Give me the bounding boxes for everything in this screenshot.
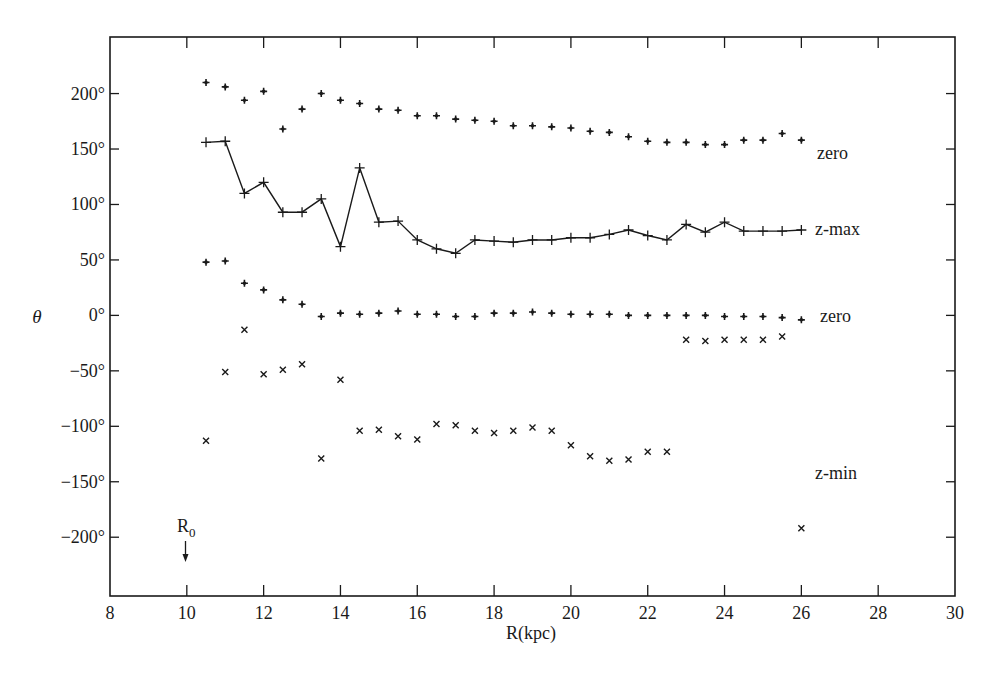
series-zero bbox=[203, 79, 805, 148]
marker-dot bbox=[608, 131, 612, 135]
cross-marker-icon bbox=[222, 369, 228, 375]
plus-marker-icon bbox=[604, 229, 614, 239]
cross-marker-icon bbox=[472, 428, 478, 434]
x-tick-label: 28 bbox=[869, 603, 887, 623]
plus-marker-icon bbox=[239, 188, 249, 198]
marker-dot bbox=[377, 107, 381, 111]
marker-dot bbox=[646, 314, 650, 318]
marker-dot bbox=[511, 311, 515, 315]
data-series bbox=[201, 79, 806, 531]
series-label-zero: zero bbox=[817, 143, 848, 163]
plus-marker-icon bbox=[489, 236, 499, 246]
series-label-zero: zero bbox=[820, 306, 851, 326]
cross-marker-icon bbox=[779, 333, 785, 339]
cross-marker-icon bbox=[760, 337, 766, 343]
cross-marker-icon bbox=[357, 428, 363, 434]
marker-dot bbox=[262, 90, 266, 94]
plus-marker-icon bbox=[259, 177, 269, 187]
cross-marker-icon bbox=[491, 430, 497, 436]
marker-dot bbox=[223, 259, 227, 263]
marker-dot bbox=[742, 315, 746, 319]
marker-dot bbox=[684, 314, 688, 318]
cross-marker-icon bbox=[299, 361, 305, 367]
cross-marker-icon bbox=[241, 327, 247, 333]
plus-marker-icon bbox=[316, 194, 326, 204]
marker-dot bbox=[223, 85, 227, 89]
y-axis-title: θ bbox=[32, 306, 41, 327]
marker-dot bbox=[704, 314, 708, 318]
plus-marker-icon bbox=[643, 231, 653, 241]
plus-marker-icon bbox=[278, 207, 288, 217]
cross-marker-icon bbox=[587, 453, 593, 459]
cross-marker-icon bbox=[702, 338, 708, 344]
plus-marker-icon bbox=[431, 244, 441, 254]
y-tick-label: −200° bbox=[61, 527, 105, 547]
y-tick-label: −150° bbox=[61, 472, 105, 492]
theta-vs-radius-chart: 81012141618202224262830 200°150°100°50°0… bbox=[0, 0, 998, 686]
marker-dot bbox=[243, 281, 247, 285]
marker-dot bbox=[281, 127, 285, 131]
plus-marker-icon bbox=[451, 248, 461, 258]
marker-dot bbox=[684, 141, 688, 145]
cross-marker-icon bbox=[530, 424, 536, 430]
marker-dot bbox=[723, 315, 727, 319]
cross-marker-icon bbox=[626, 457, 632, 463]
cross-marker-icon bbox=[683, 337, 689, 343]
plus-marker-icon bbox=[777, 226, 787, 236]
plus-marker-icon bbox=[528, 235, 538, 245]
cross-marker-icon bbox=[510, 428, 516, 434]
marker-dot bbox=[454, 117, 458, 121]
r0-subscript: 0 bbox=[189, 525, 196, 540]
cross-marker-icon bbox=[395, 433, 401, 439]
plus-marker-icon bbox=[547, 235, 557, 245]
y-tick-label: 200° bbox=[71, 84, 105, 104]
cross-marker-icon bbox=[568, 442, 574, 448]
plus-marker-icon bbox=[220, 136, 230, 146]
marker-dot bbox=[262, 288, 266, 292]
r0-label: R bbox=[177, 516, 189, 536]
y-tick-label: 150° bbox=[71, 139, 105, 159]
marker-dot bbox=[608, 312, 612, 316]
marker-dot bbox=[358, 312, 362, 316]
marker-dot bbox=[473, 118, 477, 122]
y-tick-label: 50° bbox=[80, 250, 105, 270]
marker-dot bbox=[454, 315, 458, 319]
marker-dot bbox=[492, 119, 496, 123]
marker-dot bbox=[415, 114, 419, 118]
r0-marker: R0 bbox=[177, 516, 196, 562]
marker-dot bbox=[665, 141, 669, 145]
marker-dot bbox=[588, 312, 592, 316]
x-tick-label: 26 bbox=[792, 603, 810, 623]
marker-dot bbox=[204, 260, 208, 264]
marker-dot bbox=[339, 311, 343, 315]
y-tick-label: 0° bbox=[89, 305, 105, 325]
plus-marker-icon bbox=[566, 233, 576, 243]
marker-dot bbox=[358, 102, 362, 106]
series-zero-lower- bbox=[203, 258, 805, 324]
y-tick-label: 100° bbox=[71, 194, 105, 214]
marker-dot bbox=[396, 108, 400, 112]
x-tick-label: 20 bbox=[562, 603, 580, 623]
marker-dot bbox=[531, 124, 535, 128]
marker-dot bbox=[415, 312, 419, 316]
marker-dot bbox=[800, 318, 804, 322]
marker-dot bbox=[569, 126, 573, 130]
plus-marker-icon bbox=[700, 227, 710, 237]
marker-dot bbox=[473, 315, 477, 319]
series-z-max bbox=[201, 136, 806, 258]
x-tick-label: 30 bbox=[946, 603, 964, 623]
y-tick-label: −100° bbox=[61, 416, 105, 436]
cross-marker-icon bbox=[376, 427, 382, 433]
cross-marker-icon bbox=[337, 377, 343, 383]
cross-marker-icon bbox=[318, 455, 324, 461]
plus-marker-icon bbox=[585, 233, 595, 243]
marker-dot bbox=[204, 81, 208, 85]
marker-dot bbox=[377, 311, 381, 315]
marker-dot bbox=[300, 302, 304, 306]
plus-marker-icon bbox=[720, 217, 730, 227]
x-tick-label: 12 bbox=[255, 603, 273, 623]
cross-marker-icon bbox=[664, 449, 670, 455]
marker-dot bbox=[550, 125, 554, 129]
marker-dot bbox=[780, 316, 784, 320]
marker-dot bbox=[435, 312, 439, 316]
